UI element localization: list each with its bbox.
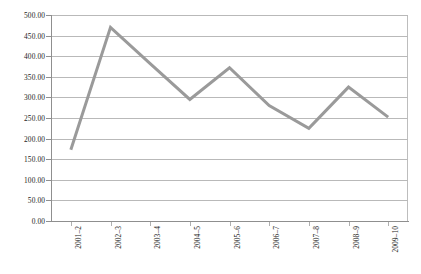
series-line-1 (71, 27, 388, 149)
y-tick-label: 350.00 (24, 72, 45, 81)
x-tick-label: 2002–3 (114, 226, 123, 249)
x-tick-label: 2003–4 (153, 226, 162, 249)
y-tick-mark (46, 221, 51, 222)
y-tick-label: 450.00 (24, 31, 45, 40)
line-chart: 0.0050.00100.00150.00200.00250.00300.003… (0, 0, 421, 274)
y-tick-label: 50.00 (28, 196, 45, 205)
y-axis: 0.0050.00100.00150.00200.00250.00300.003… (0, 0, 48, 274)
y-tick-label: 0.00 (32, 217, 45, 226)
y-tick-label: 200.00 (24, 134, 45, 143)
y-tick-label: 400.00 (24, 52, 45, 61)
x-tick-label: 2004–5 (193, 226, 202, 249)
x-axis: 2001–22002–32003–42004–52005–62006–72007… (51, 226, 408, 274)
y-tick-label: 100.00 (24, 175, 45, 184)
x-tick-label: 2008–9 (352, 226, 361, 249)
y-tick-label: 300.00 (24, 93, 45, 102)
y-tick-label: 150.00 (24, 155, 45, 164)
data-series (51, 15, 408, 221)
x-tick-label: 2009–10 (391, 226, 400, 253)
x-tick-label: 2007–8 (312, 226, 321, 249)
y-tick-label: 500.00 (24, 11, 45, 20)
x-tick-label: 2001–2 (74, 226, 83, 249)
y-tick-label: 250.00 (24, 114, 45, 123)
x-tick-label: 2005–6 (233, 226, 242, 249)
x-tick-label: 2006–7 (272, 226, 281, 249)
